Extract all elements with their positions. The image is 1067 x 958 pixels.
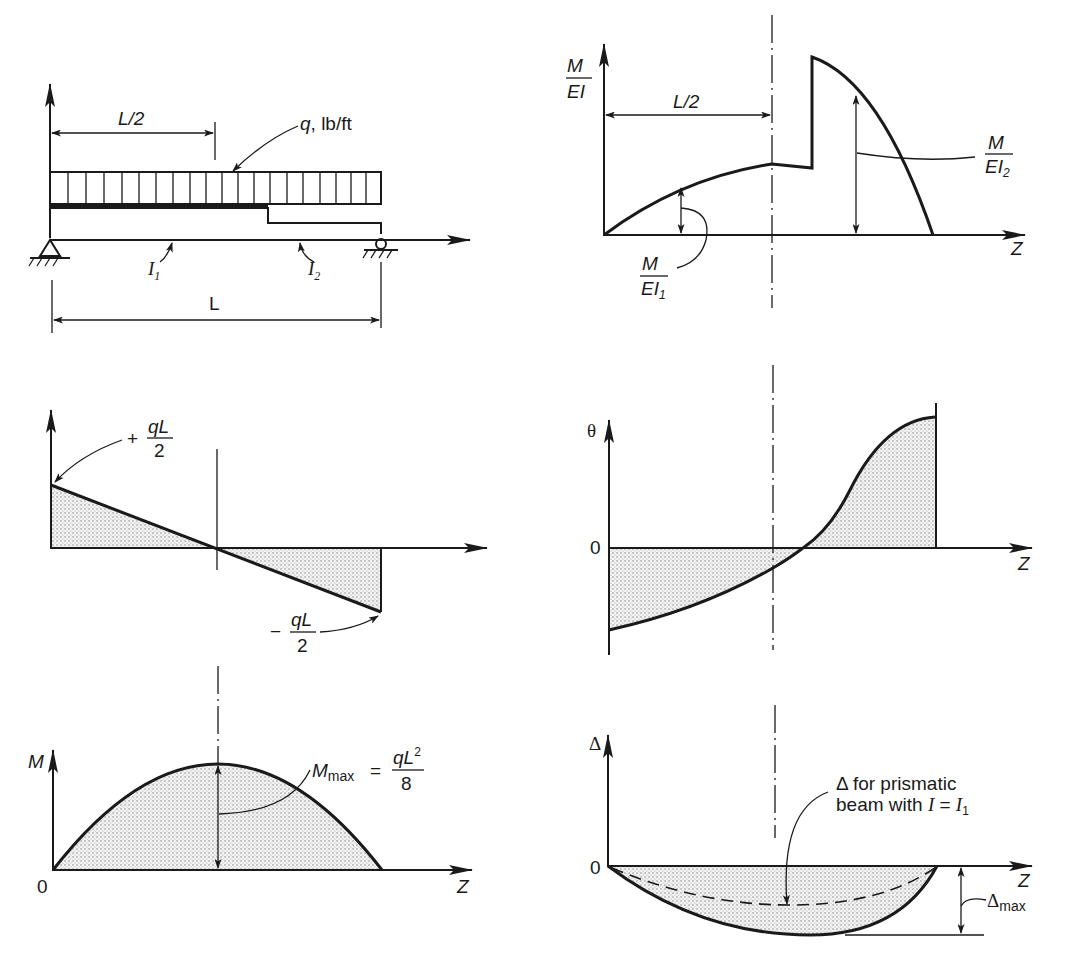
beam-panel: L/2 q, lb/ft q, lb/ft <box>29 84 470 333</box>
slope-panel: θ 0 Z <box>587 365 1032 655</box>
mei-region2-leader <box>857 153 975 159</box>
shear-positive-sign: + <box>127 428 138 449</box>
shear-positive-num: qL <box>148 416 169 437</box>
shear-positive-den: 2 <box>154 440 165 461</box>
uniform-load-block <box>50 172 381 204</box>
pin-support <box>29 240 70 266</box>
slope-positive-area <box>803 417 935 548</box>
beam-stepped-section <box>50 208 381 234</box>
prismatic-note-line1: Δ for prismatic <box>836 773 956 794</box>
mmax-num: qL2 <box>393 745 421 768</box>
deflection-z-label: Z <box>1017 870 1031 891</box>
mei-z-label: Z <box>1010 238 1024 259</box>
mei-half-span-label: L/2 <box>673 91 700 112</box>
span-label: L <box>209 293 220 314</box>
slope-y-label: θ <box>587 420 596 441</box>
moment-origin-label: 0 <box>37 876 48 897</box>
mei-y-label-den: EI <box>567 81 586 102</box>
dmax-label: Δmax <box>987 890 1026 914</box>
inertia-1-label: I1 <box>147 258 160 283</box>
inertia-2-label: I2 <box>307 258 320 283</box>
inertia-1-leader <box>160 243 172 262</box>
mmax-label: Mmax <box>312 760 354 784</box>
shear-negative-leader <box>320 616 378 632</box>
mei-region2-num: M <box>988 132 1004 153</box>
shear-negative-sign: − <box>270 621 281 642</box>
shear-negative-den: 2 <box>297 635 308 656</box>
mei-region1-den: EI1 <box>641 278 666 302</box>
load-label: q, lb/ft <box>300 113 352 134</box>
mmax-den: 8 <box>401 773 412 794</box>
mei-region2-den: EI2 <box>985 156 1010 180</box>
load-leader <box>233 126 298 171</box>
deflection-panel: Δ 0 Z Δ for prismatic beam with I = I1 Δ… <box>589 705 1032 935</box>
mei-y-label-num: M <box>567 55 583 76</box>
deflection-area <box>608 866 937 935</box>
shear-positive-leader <box>55 440 122 482</box>
moment-panel: M 0 Z Mmax = qL2 8 <box>28 666 472 897</box>
shear-negative-num: qL <box>291 609 312 630</box>
moment-z-label: Z <box>456 876 470 897</box>
slope-origin-label: 0 <box>590 537 601 558</box>
slope-z-label: Z <box>1017 553 1031 574</box>
shear-panel: + qL 2 − qL 2 <box>50 410 487 656</box>
mei-curve <box>604 57 933 235</box>
deflection-origin-label: 0 <box>590 857 601 878</box>
dmax-leader <box>961 899 986 906</box>
deflection-y-label: Δ <box>589 733 601 754</box>
moment-y-label: M <box>28 751 44 772</box>
prismatic-note-line2: beam with I = I1 <box>836 794 969 818</box>
slope-negative-area <box>609 548 803 630</box>
m-over-ei-panel: Z M EI L/2 M EI1 M EI2 <box>566 15 1025 308</box>
roller-support <box>363 239 398 258</box>
mmax-equals: = <box>370 760 381 781</box>
mei-region1-num: M <box>642 253 658 274</box>
beam-deflection-figure: L/2 q, lb/ft q, lb/ft <box>0 0 1067 958</box>
half-span-label: L/2 <box>118 108 145 129</box>
